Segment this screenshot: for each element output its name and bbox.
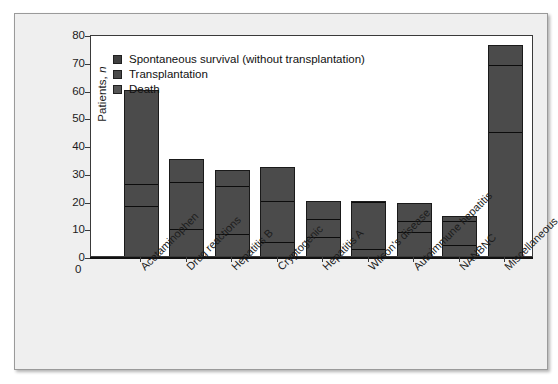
legend-swatch-icon (113, 85, 122, 94)
bar-segment (307, 202, 340, 220)
bar-segment (170, 160, 203, 182)
y-tick-label-10: 10 (51, 224, 85, 236)
legend-label: Death (129, 83, 160, 95)
legend-item[interactable]: Death (113, 82, 365, 96)
legend-swatch-icon (113, 70, 122, 79)
x-axis-origin-label: 0 (75, 263, 81, 275)
legend-swatch-icon (113, 55, 122, 64)
y-tick-label-40: 40 (51, 141, 85, 153)
y-tick-label-60: 60 (51, 86, 85, 98)
legend-item[interactable]: Spontaneous survival (without transplant… (113, 52, 365, 66)
bar-acetaminophen[interactable] (124, 90, 159, 257)
y-tick-label-80: 80 (51, 30, 85, 42)
bar-segment (489, 65, 522, 131)
bar-segment (216, 171, 249, 186)
y-tick-label-20: 20 (51, 197, 85, 209)
bar-miscellaneous[interactable] (488, 45, 523, 256)
bar-segment (125, 91, 158, 185)
bar-segment (125, 184, 158, 206)
legend-label: Spontaneous survival (without transplant… (129, 53, 365, 65)
y-tick-label-50: 50 (51, 113, 85, 125)
y-tick-label-0: 0 (51, 252, 85, 264)
y-tick-label-30: 30 (51, 169, 85, 181)
legend-label: Transplantation (129, 68, 208, 80)
bar-segment (489, 46, 522, 65)
y-tick-label-70: 70 (51, 58, 85, 70)
bar-segment (261, 168, 294, 201)
legend-item[interactable]: Transplantation (113, 67, 365, 81)
figure-frame: Patients, n 01020304050607080 Spontaneou… (14, 13, 548, 370)
chart-legend: Spontaneous survival (without transplant… (113, 52, 365, 97)
